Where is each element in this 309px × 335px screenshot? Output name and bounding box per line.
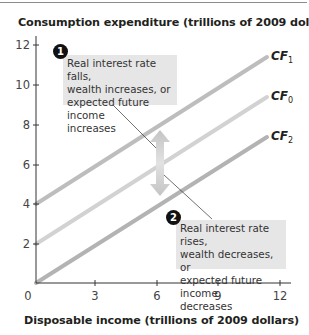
y-tick-8: 8: [23, 118, 30, 132]
x-tick-3: 3: [91, 289, 98, 303]
annotation-1-line-2: wealth increases, or: [67, 83, 173, 96]
y-tick-10: 10: [15, 78, 30, 92]
annotation-badge-1: 1: [53, 44, 68, 59]
annotation-1-line-4: increases: [67, 122, 173, 135]
annotation-badge-2: 2: [166, 210, 181, 225]
annotation-2-line-1: Real interest rate rises,: [180, 222, 282, 248]
x-tick-6: 6: [153, 289, 160, 303]
x-tick-0: 0: [24, 289, 31, 303]
y-tick-12: 12: [15, 38, 30, 52]
annotation-1-line-3: expected future income: [67, 96, 173, 122]
x-axis-title: Disposable income (trillions of 2009 dol…: [24, 314, 299, 327]
y-tick-4: 4: [23, 197, 30, 211]
y-tick-2: 2: [23, 237, 30, 251]
annotation-1-line-1: Real interest rate falls,: [67, 57, 173, 83]
annotation-box-2: Real interest rate rises, wealth decreas…: [176, 220, 286, 269]
annotation-2-line-3: expected future income: [180, 274, 282, 300]
annotation-box-1: Real interest rate falls, wealth increas…: [63, 55, 177, 105]
cf0-label: CF0: [271, 89, 293, 105]
y-tick-6: 6: [23, 158, 30, 172]
cf1-label: CF1: [271, 49, 293, 65]
cf2-label: CF2: [271, 129, 293, 145]
annotation-2-line-4: decreases: [180, 300, 282, 313]
annotation-2-line-2: wealth decreases, or: [180, 248, 282, 274]
